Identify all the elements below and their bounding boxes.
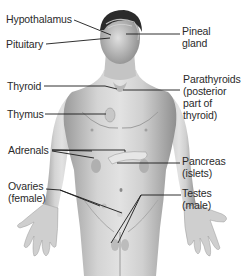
label-thyroid: Thyroid: [7, 80, 41, 92]
right-kidney: [139, 159, 149, 173]
torso: [64, 70, 177, 276]
label-ovaries: Ovaries (female): [8, 180, 46, 204]
left-kidney: [91, 159, 101, 173]
label-testes: Testes (male): [182, 187, 212, 211]
label-hypothalamus: Hypothalamus: [6, 13, 72, 25]
label-pituitary: Pituitary: [6, 38, 43, 50]
label-thymus: Thymus: [7, 108, 44, 120]
testis-right: [121, 239, 129, 251]
thymus-gland: [105, 108, 115, 122]
head: [100, 10, 142, 80]
label-parathyroids: Parathyroids (posterior part of thyroid): [183, 73, 241, 121]
endocrine-diagram: Hypothalamus Pituitary Thyroid Thymus Ad…: [0, 0, 241, 276]
label-pineal-gland: Pineal gland: [182, 25, 211, 49]
label-adrenals: Adrenals: [8, 144, 49, 156]
label-pancreas: Pancreas (islets): [182, 155, 226, 179]
